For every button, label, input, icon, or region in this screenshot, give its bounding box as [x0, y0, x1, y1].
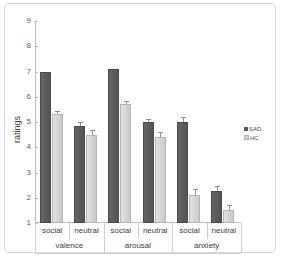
bar-sad-anxiety-neutral — [211, 191, 222, 223]
bar-hc-anxiety-social — [189, 195, 200, 223]
error-bar-cap — [215, 186, 220, 187]
error-bar-cap — [181, 117, 186, 118]
group-label-valence: valence — [35, 239, 104, 253]
y-axis-tick-label: 4 — [13, 142, 35, 152]
error-bar-cap — [124, 101, 129, 102]
figure-frame: ratings 987654321 socialneutralsocialneu… — [4, 3, 276, 253]
y-axis-tick-mark — [35, 97, 38, 98]
bar-chart: ratings 987654321 socialneutralsocialneu… — [5, 4, 277, 254]
bar-hc-arousal-social — [120, 104, 131, 223]
error-bar-cap — [158, 132, 163, 133]
bar-sad-valence-neutral — [74, 126, 85, 223]
error-bar-cap — [90, 130, 95, 131]
axis-cell-divider — [207, 223, 208, 239]
y-axis-tick-mark — [35, 21, 38, 22]
axis-cell-divider — [138, 223, 139, 239]
category-label-neutral-valence: neutral — [69, 223, 103, 239]
category-axis-labels: socialneutralsocialneutralsocialneutral — [35, 223, 241, 239]
y-axis-tick-mark — [35, 147, 38, 148]
error-bar-cap — [146, 119, 151, 120]
bar-hc-valence-neutral — [86, 135, 97, 223]
legend-item-hc: HC — [244, 134, 278, 143]
legend-label: HC — [250, 135, 259, 141]
legend-item-sad: SAD — [244, 125, 278, 134]
y-axis-tick-mark — [35, 46, 38, 47]
error-bar-cap — [227, 205, 232, 206]
axis-cell-divider — [69, 223, 70, 239]
y-axis-tick-mark — [35, 72, 38, 73]
bar-sad-arousal-social — [108, 69, 119, 223]
bar-sad-arousal-neutral — [143, 122, 154, 223]
y-axis-tick-mark — [35, 122, 38, 123]
group-axis-labels: valencearousalanxiety — [35, 239, 241, 254]
y-axis-tick-label: 5 — [13, 117, 35, 127]
group-label-arousal: arousal — [104, 239, 173, 253]
axis-group-divider — [35, 239, 36, 253]
y-axis-tick-mark — [35, 173, 38, 174]
bar-hc-arousal-neutral — [155, 137, 166, 223]
y-axis-tick-label: 2 — [13, 193, 35, 203]
y-axis-tick-label: 8 — [13, 41, 35, 51]
axis-cell-divider — [241, 223, 242, 239]
axis-group-divider — [241, 239, 242, 253]
legend-swatch-hc-icon — [244, 135, 249, 140]
y-axis-tick-label: 1 — [13, 218, 35, 228]
legend-label: SAD — [249, 126, 261, 132]
bar-hc-valence-social — [52, 114, 63, 223]
category-label-neutral-arousal: neutral — [138, 223, 172, 239]
bar-sad-anxiety-social — [177, 122, 188, 223]
axis-cell-divider — [35, 223, 36, 239]
legend-swatch-sad-icon — [244, 127, 248, 131]
group-label-anxiety: anxiety — [172, 239, 241, 253]
axis-group-divider — [172, 239, 173, 253]
axis-cell-divider — [172, 223, 173, 239]
legend: SADHC — [244, 125, 278, 143]
axis-bottom-line — [35, 253, 241, 254]
error-bar-cap — [193, 189, 198, 190]
error-bar-cap — [78, 122, 83, 123]
y-axis-tick-label: 6 — [13, 92, 35, 102]
category-label-social-anxiety: social — [172, 223, 206, 239]
y-axis-tick-label: 3 — [13, 168, 35, 178]
y-axis-tick-label: 7 — [13, 67, 35, 77]
y-axis-tick-label: 9 — [13, 16, 35, 26]
axis-cell-divider — [104, 223, 105, 239]
category-label-social-valence: social — [35, 223, 69, 239]
error-bar-cap — [55, 111, 60, 112]
y-axis-tick-mark — [35, 198, 38, 199]
axis-group-divider — [104, 239, 105, 253]
plot-area: 987654321 — [35, 21, 241, 223]
category-label-social-arousal: social — [104, 223, 138, 239]
category-label-neutral-anxiety: neutral — [207, 223, 241, 239]
bar-hc-anxiety-neutral — [223, 210, 234, 223]
bar-sad-valence-social — [40, 72, 51, 224]
